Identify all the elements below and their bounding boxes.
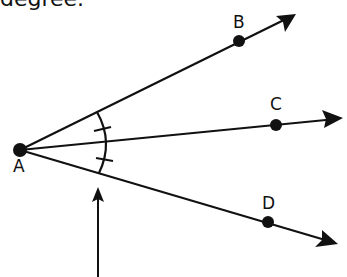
point-d [262, 216, 274, 228]
pointer-arrow [92, 187, 104, 277]
point-a [13, 143, 27, 157]
label-d: D [262, 195, 275, 212]
ray-ad [20, 150, 338, 247]
point-b [233, 35, 245, 47]
congruence-tick-lower [96, 158, 113, 161]
angle-diagram: degree. [0, 0, 347, 277]
ray-ac [20, 110, 343, 150]
ray-ab [20, 14, 296, 150]
diagram-canvas [0, 0, 347, 277]
label-c: C [270, 96, 282, 113]
congruence-tick-upper [94, 127, 111, 131]
label-b: B [233, 14, 245, 31]
point-c [270, 119, 282, 131]
label-a: A [13, 158, 25, 175]
